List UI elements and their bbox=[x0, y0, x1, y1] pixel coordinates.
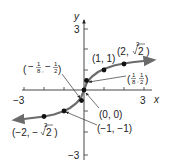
svg-text:8: 8 bbox=[132, 79, 136, 85]
point-neg1 bbox=[62, 109, 67, 114]
svg-text:,: , bbox=[42, 67, 44, 73]
label-pos-eighth: ( 1 8 , 1 2 ) bbox=[127, 72, 148, 85]
svg-text:(: ( bbox=[127, 74, 131, 85]
svg-text:8: 8 bbox=[37, 68, 41, 74]
point-one bbox=[102, 68, 107, 73]
label-zero: (0, 0) bbox=[99, 109, 122, 120]
svg-text:2 ): 2 ) bbox=[138, 46, 150, 57]
point-origin bbox=[82, 88, 87, 93]
svg-text:(2,: (2, bbox=[117, 46, 129, 57]
svg-text:2: 2 bbox=[140, 79, 144, 85]
leader-neg1 bbox=[66, 112, 97, 125]
cube-root-graph: y x 3 −3 −3 3 (1, 1) (2, 3 2 ) ( 1 8 , 1… bbox=[0, 0, 169, 167]
point-pos-eighth bbox=[84, 78, 89, 83]
svg-text:): ) bbox=[145, 74, 148, 85]
svg-text:1: 1 bbox=[140, 72, 144, 78]
x-axis-label: x bbox=[153, 94, 160, 105]
point-neg-eighth bbox=[79, 98, 84, 103]
svg-text:(: ( bbox=[23, 64, 27, 75]
x-min-label: −3 bbox=[13, 95, 25, 106]
svg-text:−: − bbox=[28, 61, 34, 72]
label-two: (2, 3 2 ) bbox=[117, 41, 150, 57]
svg-text:1: 1 bbox=[132, 72, 136, 78]
leader-neg-eighth bbox=[62, 74, 80, 98]
label-one: (1, 1) bbox=[92, 53, 115, 64]
leader-zero bbox=[86, 93, 99, 108]
svg-text:(−2, −: (−2, − bbox=[12, 127, 38, 138]
svg-text:−: − bbox=[45, 61, 51, 72]
y-min-label: −3 bbox=[68, 150, 80, 161]
svg-text:1: 1 bbox=[37, 61, 41, 67]
svg-text:2 ): 2 ) bbox=[46, 127, 58, 138]
point-neg2 bbox=[42, 114, 47, 119]
svg-text:,: , bbox=[137, 77, 139, 83]
label-neg1: (−1, −1) bbox=[97, 123, 132, 134]
y-axis-label: y bbox=[73, 11, 80, 22]
point-two bbox=[122, 62, 127, 67]
svg-text:): ) bbox=[58, 64, 61, 75]
leader-pos-eighth bbox=[89, 76, 126, 82]
y-max-label: 3 bbox=[74, 24, 80, 35]
label-neg-eighth: ( − 1 8 , − 1 2 ) bbox=[23, 61, 61, 75]
label-neg2: (−2, − 3 2 ) bbox=[12, 122, 58, 138]
x-max-label: 3 bbox=[140, 95, 146, 106]
